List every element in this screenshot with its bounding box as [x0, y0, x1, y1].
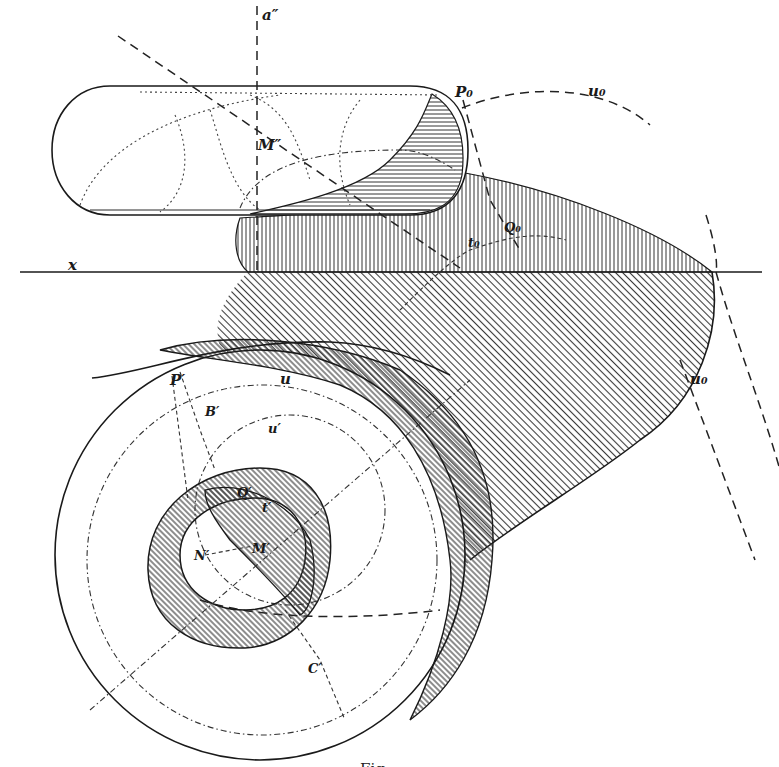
label-B-prime: B′	[204, 404, 220, 419]
label-x-axis: x	[67, 256, 78, 274]
label-t-prime: t′	[262, 500, 272, 515]
label-t0: t₀	[468, 235, 480, 250]
label-P-prime: P′	[169, 371, 185, 389]
label-N-prime: N′	[193, 548, 210, 563]
label-a-double-prime: a″	[262, 6, 279, 24]
label-P0: P₀	[454, 83, 473, 101]
line-to-bottom-right	[680, 360, 755, 560]
label-Q-prime: Q′	[237, 485, 252, 500]
label-u0-right: u₀	[690, 370, 708, 388]
label-u0-top: u₀	[588, 82, 606, 100]
arc-u0-lower-dashed	[716, 272, 779, 470]
arc-u0-right-vertical	[706, 215, 717, 272]
figure-caption: Fig. ...	[360, 760, 409, 767]
label-M-prime: M′	[251, 541, 270, 556]
descriptive-geometry-figure: a″ M″ P₀ u₀ x t₀ Q₀ u₀ P′ u B′ u′ Q′ t′ …	[0, 0, 779, 767]
label-u: u	[280, 370, 291, 388]
label-C-prime: C′	[308, 661, 322, 676]
label-M-double-prime: M″	[257, 136, 282, 154]
arc-u0-top	[462, 91, 650, 125]
label-u-prime: u′	[268, 421, 281, 436]
label-Q0: Q₀	[504, 220, 521, 235]
